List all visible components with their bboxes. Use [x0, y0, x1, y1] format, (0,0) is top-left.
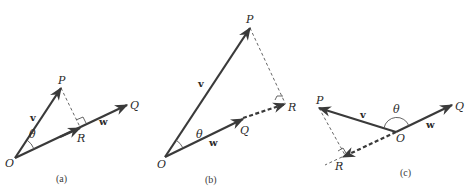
- vector-v-label: v: [359, 109, 367, 120]
- point-p-label: P: [315, 94, 324, 107]
- angle-theta-label: θ: [196, 128, 203, 141]
- point-r-label: R: [76, 132, 85, 145]
- panel-b: P R Q O v w θ (b): [157, 13, 296, 186]
- angle-theta-label: θ: [393, 103, 400, 116]
- caption-c: (c): [400, 167, 411, 179]
- point-o-label: O: [396, 132, 405, 145]
- caption-b: (b): [205, 174, 217, 186]
- angle-arc: [27, 140, 34, 149]
- vector-w-label: w: [98, 116, 108, 127]
- point-r-label: R: [287, 101, 296, 114]
- caption-a: (a): [56, 173, 67, 185]
- projection-arrow: [343, 132, 396, 157]
- right-angle-marker: [275, 96, 283, 100]
- point-q-label: Q: [130, 99, 139, 112]
- point-p-label: P: [57, 74, 66, 87]
- vector-w-label: w: [425, 119, 435, 130]
- point-q-label: Q: [455, 100, 464, 113]
- vector-w-label: w: [208, 137, 218, 148]
- panel-a: P Q R O v w θ (a): [5, 74, 139, 185]
- point-o-label: O: [157, 158, 166, 171]
- vector-v-label: v: [29, 112, 37, 123]
- angle-arc: [176, 140, 183, 148]
- right-angle-marker: [76, 117, 86, 123]
- vector-projection-figure: P Q R O v w θ (a) P R Q O v w θ (b): [0, 0, 475, 192]
- projection-extension-arrow: [243, 104, 285, 118]
- vector-v-arrow: [165, 28, 250, 157]
- point-p-label: P: [245, 13, 254, 26]
- vector-v-label: v: [197, 78, 205, 89]
- panel-c: P Q O R v w θ (c): [315, 94, 464, 179]
- point-q-label: Q: [240, 124, 249, 137]
- perpendicular-line-pr: [250, 28, 285, 103]
- vector-w-arrow: [396, 105, 452, 132]
- perpendicular-line-pr: [61, 88, 80, 127]
- point-o-label: O: [5, 157, 14, 170]
- angle-theta-label: θ: [29, 128, 36, 141]
- right-angle-marker: [338, 148, 346, 153]
- point-r-label: R: [334, 160, 343, 173]
